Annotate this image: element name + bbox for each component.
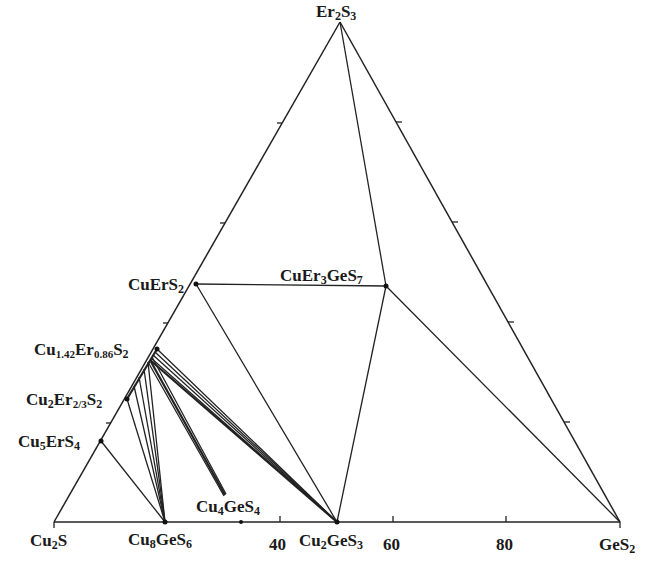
label-cu5ers4: Cu5ErS4 (18, 432, 80, 453)
tick-label-80: 80 (496, 535, 513, 554)
point-cu142er086s2 (155, 347, 160, 352)
tick-label-40: 40 (269, 535, 286, 554)
label-cu142er086s2: Cu1.42Er0.86S2 (34, 340, 129, 361)
label-cuers2: CuErS2 (128, 275, 184, 296)
right-edge-ticks (396, 122, 570, 422)
label-cu2s: Cu2S (30, 531, 67, 552)
point-cu2er23s2 (125, 397, 130, 402)
label-cu2ges3: Cu2GeS3 (299, 531, 363, 552)
label-er2s3: Er2S3 (316, 2, 356, 23)
label-cu2er23s2: Cu2Er2/3S2 (26, 390, 102, 411)
tick-label-60: 60 (383, 535, 400, 554)
point-cu8ges6 (163, 520, 168, 525)
tie-lines (101, 22, 620, 522)
left-edge-ticks (106, 123, 282, 423)
point-cuer3ges7 (384, 284, 389, 289)
point-cu2ges3 (335, 520, 340, 525)
point-cu5ers4 (99, 439, 104, 444)
label-cu4ges4: Cu4GeS4 (196, 497, 260, 518)
ternary-phase-diagram: Er2S3 CuErS2 CuEr3GeS7 Cu1.42Er0.86S2 Cu… (0, 0, 659, 569)
label-cu8ges6: Cu8GeS6 (128, 530, 192, 551)
point-cuers2 (194, 282, 199, 287)
label-cuer3ges7: CuEr3GeS7 (280, 266, 363, 287)
compound-points (99, 282, 389, 525)
point-cu4ges4 (239, 520, 243, 524)
label-ges2: GeS2 (599, 535, 635, 556)
